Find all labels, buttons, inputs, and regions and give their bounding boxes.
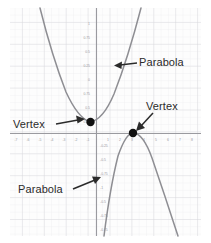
- svg-text:8: 8: [191, 138, 193, 142]
- svg-text:-0.5: -0.5: [100, 200, 106, 204]
- svg-text:3: 3: [131, 138, 133, 142]
- svg-text:0.75: 0.75: [83, 92, 90, 96]
- svg-text:-7: -7: [14, 138, 17, 142]
- annotation-label-vertex-right: Vertex: [146, 100, 178, 112]
- svg-text:0.75: 0.75: [83, 36, 90, 40]
- svg-text:-4: -4: [50, 138, 53, 142]
- svg-text:-0.75: -0.75: [100, 172, 108, 176]
- svg-text:0.5: 0.5: [85, 50, 90, 54]
- vertex-marker-right: [129, 129, 137, 137]
- svg-text:-2: -2: [74, 138, 77, 142]
- svg-text:-6: -6: [26, 138, 29, 142]
- vertex-marker-left: [86, 118, 94, 126]
- svg-text:-0.25: -0.25: [100, 144, 108, 148]
- svg-text:2: 2: [119, 138, 121, 142]
- svg-text:-1: -1: [100, 186, 103, 190]
- svg-text:1: 1: [107, 138, 109, 142]
- svg-text:5: 5: [155, 138, 157, 142]
- svg-text:0.5: 0.5: [85, 106, 90, 110]
- parabola-graph-figure: 1 0.75 0.5 0.25 0 0.75 0.5 0.25 -0.25 -0…: [0, 0, 211, 243]
- annotation-label-vertex-left: Vertex: [13, 118, 45, 130]
- svg-text:1: 1: [88, 22, 90, 26]
- svg-text:-1: -1: [86, 138, 89, 142]
- annotation-label-parabola-bottom: Parabola: [18, 183, 63, 195]
- svg-text:7: 7: [179, 138, 181, 142]
- svg-text:-3: -3: [62, 138, 65, 142]
- annotation-label-parabola-top: Parabola: [139, 56, 184, 68]
- svg-text:-5: -5: [38, 138, 41, 142]
- svg-text:0.25: 0.25: [83, 64, 90, 68]
- svg-text:6: 6: [167, 138, 169, 142]
- svg-text:-0.5: -0.5: [100, 158, 106, 162]
- svg-text:0: 0: [88, 78, 90, 82]
